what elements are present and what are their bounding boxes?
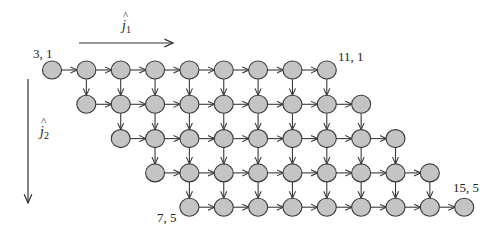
node-5-1	[111, 61, 130, 79]
node-3-1	[43, 61, 62, 79]
node-5-3	[111, 130, 130, 148]
node-9-5	[249, 198, 268, 216]
axis-j2-hat: ^	[41, 115, 47, 127]
node-11-3	[317, 130, 336, 148]
node-10-2	[283, 95, 302, 113]
node-10-5	[283, 198, 302, 216]
node-5-2	[111, 95, 130, 113]
node-13-5	[386, 198, 405, 216]
node-8-3	[214, 130, 233, 148]
node-6-2	[146, 95, 165, 113]
node-11-1	[317, 61, 336, 79]
node-14-4	[420, 164, 439, 182]
node-13-4	[386, 164, 405, 182]
node-8-5	[214, 198, 233, 216]
node-7-3	[180, 130, 199, 148]
node-6-1	[146, 61, 165, 79]
label-node-15-5: 15, 5	[453, 180, 479, 195]
node-7-4	[180, 164, 199, 182]
node-12-3	[352, 130, 371, 148]
node-9-2	[249, 95, 268, 113]
node-4-1	[77, 61, 96, 79]
node-12-4	[352, 164, 371, 182]
node-12-2	[352, 95, 371, 113]
node-7-1	[180, 61, 199, 79]
node-12-5	[352, 198, 371, 216]
node-10-3	[283, 130, 302, 148]
node-8-4	[214, 164, 233, 182]
node-7-5	[180, 198, 199, 216]
node-11-5	[317, 198, 336, 216]
node-6-4	[146, 164, 165, 182]
node-9-1	[249, 61, 268, 79]
node-11-2	[317, 95, 336, 113]
node-10-1	[283, 61, 302, 79]
node-11-4	[317, 164, 336, 182]
node-14-5	[420, 198, 439, 216]
label-node-11-1: 11, 1	[338, 49, 364, 64]
label-node-7-5: 7, 5	[157, 210, 177, 225]
node-6-3	[146, 130, 165, 148]
node-9-4	[249, 164, 268, 182]
node-9-3	[249, 130, 268, 148]
node-10-4	[283, 164, 302, 182]
dependence-graph: j1 ^ j2 ^ 3, 1 11, 1 7, 5 15, 5	[0, 0, 504, 234]
node-13-3	[386, 130, 405, 148]
label-node-3-1: 3, 1	[33, 46, 53, 61]
axis-j1: j1 ^	[79, 9, 173, 43]
node-8-2	[214, 95, 233, 113]
axis-j1-hat: ^	[123, 9, 129, 21]
node-4-2	[77, 95, 96, 113]
node-15-5	[455, 198, 474, 216]
axis-j2: j2 ^	[28, 79, 49, 203]
node-8-1	[214, 61, 233, 79]
node-7-2	[180, 95, 199, 113]
